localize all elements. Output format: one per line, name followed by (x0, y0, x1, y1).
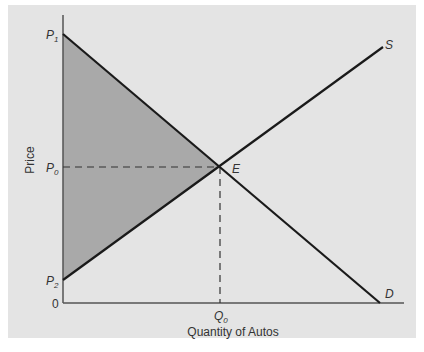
y-axis-label: Price (23, 146, 37, 174)
supply-demand-diagram: P1 P0 P2 0 Q0 Quantity of Autos Price E … (0, 0, 424, 352)
p0-label: P0 (46, 161, 59, 177)
equilibrium-label: E (232, 162, 241, 176)
q0-label: Q0 (214, 309, 228, 325)
surplus-shaded-region (63, 34, 220, 280)
demand-label: D (385, 287, 394, 301)
supply-label: S (385, 38, 393, 52)
p2-label: P2 (46, 274, 59, 290)
x-axis-label: Quantity of Autos (187, 325, 278, 339)
p1-label: P1 (46, 28, 58, 44)
origin-label: 0 (52, 297, 59, 311)
